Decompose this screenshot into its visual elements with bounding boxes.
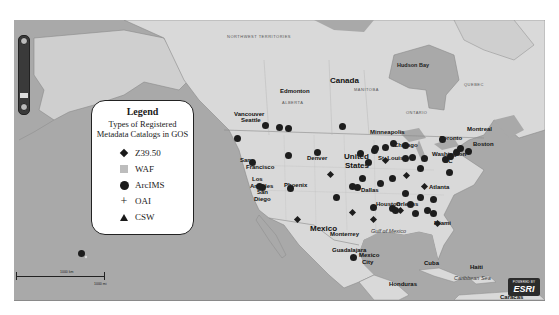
plus-icon: + bbox=[118, 196, 130, 206]
arcims-catalog-marker[interactable] bbox=[389, 175, 396, 182]
arcims-catalog-marker[interactable] bbox=[421, 155, 428, 162]
arcims-catalog-marker[interactable] bbox=[377, 180, 384, 187]
zoom-slider-handle[interactable] bbox=[20, 93, 28, 98]
label-haiti: Haiti bbox=[470, 264, 483, 270]
arcims-catalog-marker[interactable] bbox=[370, 204, 377, 211]
arcims-catalog-marker[interactable] bbox=[439, 136, 446, 143]
arcims-catalog-marker[interactable] bbox=[349, 183, 356, 190]
label-northwest-territories: NORTHWEST TERRITORIES bbox=[227, 34, 291, 39]
arcims-catalog-marker[interactable] bbox=[234, 135, 241, 142]
label-hudson-bay: Hudson Bay bbox=[397, 62, 429, 68]
arcims-catalog-marker[interactable] bbox=[407, 201, 414, 208]
label-boston: Boston bbox=[473, 141, 494, 147]
arcims-catalog-marker[interactable] bbox=[359, 175, 366, 182]
legend-item-z3950: Z39.50 bbox=[118, 145, 193, 161]
arcims-catalog-marker[interactable] bbox=[409, 154, 416, 161]
arcims-catalog-marker[interactable] bbox=[390, 140, 397, 147]
arcims-catalog-marker[interactable] bbox=[465, 148, 472, 155]
scale-bar: 1000 km 1000 mi bbox=[16, 270, 108, 280]
arcims-catalog-marker[interactable] bbox=[256, 183, 263, 190]
esri-logo-text: ESRI bbox=[508, 284, 540, 294]
arcims-catalog-marker[interactable] bbox=[78, 250, 85, 257]
arcims-catalog-marker[interactable] bbox=[285, 152, 292, 159]
legend-title: Legend bbox=[92, 106, 193, 117]
arcims-catalog-marker[interactable] bbox=[262, 122, 269, 129]
label-gulf-of-mexico: Gulf of Mexico bbox=[371, 228, 406, 234]
legend-item-csw: CSW bbox=[118, 209, 193, 225]
arcims-catalog-marker[interactable] bbox=[350, 254, 357, 261]
label-minneapolis: Minneapolis bbox=[370, 129, 405, 135]
legend-panel: Legend Types of Registered Metadata Cata… bbox=[91, 100, 194, 235]
legend-item-label: OAI bbox=[135, 196, 151, 206]
scale-mi-label: 1000 mi bbox=[94, 282, 106, 286]
label-quebec: QUEBEC bbox=[464, 82, 484, 87]
arcims-catalog-marker[interactable] bbox=[417, 165, 424, 172]
arcims-catalog-marker[interactable] bbox=[402, 142, 409, 149]
esri-attribution-logo[interactable]: POWERED BY ESRI bbox=[508, 278, 540, 296]
legend-subtitle-line1: Types of Registered bbox=[92, 119, 193, 129]
label-cuba: Cuba bbox=[424, 260, 439, 266]
label-manitoba: MANITOBA bbox=[354, 87, 379, 92]
arcims-catalog-marker[interactable] bbox=[382, 144, 389, 151]
arcims-catalog-marker[interactable] bbox=[276, 124, 283, 131]
arcims-catalog-marker[interactable] bbox=[457, 145, 464, 152]
arcims-catalog-marker[interactable] bbox=[339, 123, 346, 130]
label-mexico-city-2: City bbox=[362, 259, 373, 265]
label-canada: Canada bbox=[330, 76, 359, 85]
label-montreal: Montreal bbox=[467, 126, 492, 132]
label-honduras: Honduras bbox=[389, 281, 417, 287]
label-ontario: ONTARIO bbox=[406, 110, 427, 115]
label-seattle: Seattle bbox=[241, 117, 261, 123]
arcims-catalog-marker[interactable] bbox=[446, 169, 453, 176]
legend-item-label: CSW bbox=[135, 212, 155, 222]
label-mexico-city-1: Mexico bbox=[359, 252, 379, 258]
arcims-catalog-marker[interactable] bbox=[430, 210, 437, 217]
legend-item-label: ArcIMS bbox=[135, 180, 165, 190]
arcims-catalog-marker[interactable] bbox=[285, 125, 292, 132]
label-denver: Denver bbox=[307, 155, 327, 161]
label-san-diego-2: Diego bbox=[254, 196, 271, 202]
label-caribbean-sea: Caribbean Sea bbox=[454, 275, 491, 281]
label-atlanta: Atlanta bbox=[429, 184, 449, 190]
diamond-icon bbox=[118, 150, 130, 156]
arcims-catalog-marker[interactable] bbox=[417, 194, 424, 201]
arcims-catalog-marker[interactable] bbox=[249, 159, 256, 166]
label-monterrey: Monterrey bbox=[330, 231, 359, 237]
arcims-catalog-marker[interactable] bbox=[430, 196, 437, 203]
legend-subtitle-line2: Metadata Catalogs in GOS bbox=[92, 129, 193, 139]
arcims-catalog-marker[interactable] bbox=[412, 210, 419, 217]
zoom-slider[interactable] bbox=[18, 35, 30, 115]
circle-icon bbox=[118, 181, 130, 190]
legend-item-label: Z39.50 bbox=[135, 148, 161, 158]
legend-item-waf: WAF bbox=[118, 161, 193, 177]
triangle-icon bbox=[118, 214, 130, 221]
label-los-angeles-1: Los bbox=[252, 176, 263, 182]
square-icon bbox=[118, 165, 130, 173]
arcims-catalog-marker[interactable] bbox=[287, 185, 294, 192]
scale-km-label: 1000 km bbox=[60, 270, 73, 274]
arcims-catalog-marker[interactable] bbox=[402, 190, 409, 197]
arcims-catalog-marker[interactable] bbox=[333, 194, 340, 201]
zoom-out-button[interactable] bbox=[20, 103, 28, 111]
arcims-catalog-marker[interactable] bbox=[357, 150, 364, 157]
arcims-catalog-marker[interactable] bbox=[402, 155, 409, 162]
legend-item-arcims: ArcIMS bbox=[118, 177, 193, 193]
label-alberta: ALBERTA bbox=[282, 100, 303, 105]
arcims-catalog-marker[interactable] bbox=[314, 149, 321, 156]
label-edmonton: Edmonton bbox=[280, 88, 310, 94]
zoom-in-button[interactable] bbox=[20, 37, 28, 45]
legend-item-oai: + OAI bbox=[118, 193, 193, 209]
arcims-catalog-marker[interactable] bbox=[365, 159, 372, 166]
label-dallas: Dallas bbox=[361, 187, 379, 193]
arcims-catalog-marker[interactable] bbox=[372, 145, 379, 152]
legend-item-label: WAF bbox=[135, 164, 154, 174]
